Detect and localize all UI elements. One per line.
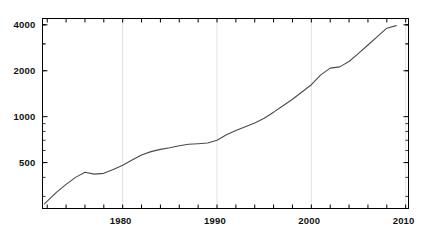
y-axis-tick-label: 500 <box>19 157 35 168</box>
x-axis-tick-label: 2000 <box>298 215 320 226</box>
y-axis-tick-label: 1000 <box>14 111 36 122</box>
axis-frame <box>43 19 409 209</box>
y-axis-tick-label: 2000 <box>14 65 36 76</box>
y-axis-tick-label: 4000 <box>14 19 36 30</box>
plot-area <box>0 0 426 237</box>
line-chart: 5001000200040001980199020002010 <box>0 0 426 237</box>
x-axis-tick-label: 2010 <box>393 215 415 226</box>
x-axis-tick-label: 1990 <box>204 215 226 226</box>
x-axis-tick-label: 1980 <box>110 215 132 226</box>
data-line-1 <box>44 26 396 204</box>
